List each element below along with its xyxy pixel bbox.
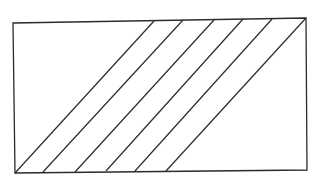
diagonal-line-2 [43, 20, 183, 172]
diagonal-line-3 [75, 20, 214, 172]
diagonal-hatch-lines [15, 18, 306, 173]
rectangle-outline [13, 18, 307, 173]
diagonal-line-1 [15, 21, 154, 173]
hatched-rectangle-drawing [0, 0, 324, 182]
diagonal-line-5 [135, 19, 272, 171]
diagonal-line-4 [106, 19, 243, 171]
diagonal-line-6 [166, 18, 306, 171]
diagram-canvas [0, 0, 324, 182]
